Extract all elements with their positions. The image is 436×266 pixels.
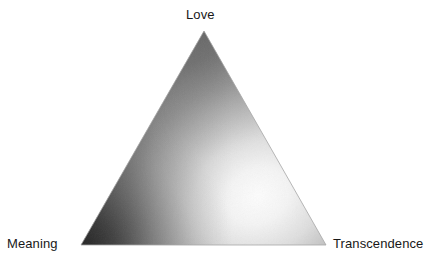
triangle-graphic [0, 0, 436, 266]
vertex-label-love: Love [186, 7, 215, 22]
triangle-diagram: Love Meaning Transcendence [0, 0, 436, 266]
vertex-label-meaning: Meaning [7, 236, 58, 251]
vertex-label-transcendence: Transcendence [333, 236, 423, 251]
